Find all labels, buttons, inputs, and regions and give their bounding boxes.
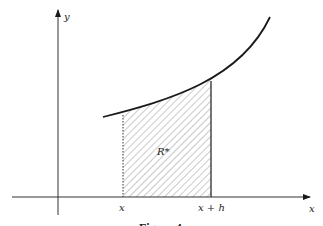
y-axis-label: y (63, 11, 70, 22)
left-bound-label: x (119, 202, 125, 213)
region-r-star (123, 79, 211, 198)
area-under-curve-diagram: y x x x + h R* Figure 4 (0, 0, 323, 226)
right-bound-label: x + h (198, 202, 225, 213)
x-axis-label: x (309, 203, 315, 214)
region-label: R* (156, 146, 170, 157)
figure-caption: Figure 4 (139, 221, 182, 226)
